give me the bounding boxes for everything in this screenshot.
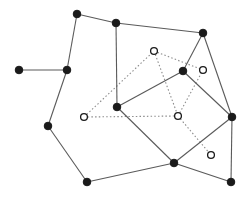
- solid-edge-B-C: [67, 14, 77, 70]
- solid-edge-K-J: [87, 163, 174, 182]
- solid-edge-J-L: [174, 163, 231, 182]
- graph-svg: [0, 0, 249, 198]
- solid-edge-B-H: [48, 70, 67, 126]
- solid-edge-E-F: [183, 33, 203, 71]
- dotted-edge-S-Q: [178, 70, 203, 116]
- solid-edge-E-I: [203, 33, 232, 117]
- solid-edge-C-D: [77, 14, 116, 23]
- dotted-edge-P-S: [154, 51, 178, 116]
- open-vertex-Q: [200, 67, 207, 74]
- dotted-edge-P-Q: [154, 51, 203, 70]
- open-vertex-P: [151, 48, 158, 55]
- solid-edge-J-I: [174, 117, 232, 163]
- solid-edge-D-E: [116, 23, 203, 33]
- solid-edge-H-K: [48, 126, 87, 182]
- filled-vertex-L: [227, 178, 235, 186]
- filled-nodes-layer: [15, 10, 236, 186]
- filled-vertex-H: [44, 122, 52, 130]
- solid-edge-J-G: [117, 107, 174, 163]
- dotted-edge-S-T: [178, 116, 211, 155]
- filled-vertex-C: [73, 10, 81, 18]
- filled-vertex-D: [112, 19, 120, 27]
- open-nodes-layer: [81, 48, 215, 159]
- filled-vertex-B: [63, 66, 71, 74]
- solid-edge-I-L: [231, 117, 232, 182]
- filled-vertex-G: [113, 103, 121, 111]
- open-vertex-R: [81, 114, 88, 121]
- filled-vertex-K: [83, 178, 91, 186]
- solid-edge-F-I: [183, 71, 232, 117]
- solid-edge-D-G: [116, 23, 117, 107]
- filled-vertex-A: [15, 66, 23, 74]
- open-vertex-S: [175, 113, 182, 120]
- solid-edges-layer: [19, 14, 232, 182]
- dotted-edges-layer: [84, 51, 211, 155]
- filled-vertex-I: [228, 113, 236, 121]
- filled-vertex-F: [179, 67, 187, 75]
- open-vertex-T: [208, 152, 215, 159]
- solid-edge-F-G: [117, 71, 183, 107]
- graph-diagram: [0, 0, 249, 198]
- filled-vertex-E: [199, 29, 207, 37]
- dotted-edge-R-S: [84, 116, 178, 117]
- filled-vertex-J: [170, 159, 178, 167]
